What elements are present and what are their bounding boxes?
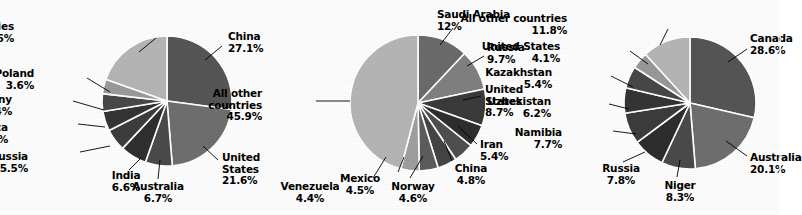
pie-label-south-africa-line-0: South Africa <box>0 122 8 134</box>
pie-label-south-africa-line-1: 4.9% <box>0 134 8 146</box>
pie-label-australia-line-0: Australia <box>750 152 802 164</box>
leader-line-russia <box>623 152 645 162</box>
pie-label-australia-line-1: 6.7% <box>128 193 188 205</box>
pie-label-united-states-line-0: United <box>222 152 260 164</box>
pie-label-germany-line-0: Germany <box>0 94 12 106</box>
pie-label-all-other-countries-line-2: 45.9% <box>208 111 262 123</box>
pie-label-russia-line-0: Russia <box>591 163 651 175</box>
pie-label-china-line-0: China <box>441 163 501 175</box>
pie-label-namibia-line-1: 7.7% <box>515 139 562 151</box>
pie-label-canada-line-1: 28.6% <box>750 45 793 57</box>
pie-label-all-other-countries-line-0: All other <box>208 88 262 100</box>
pie-label-australia: Australia20.1% <box>750 152 802 175</box>
pie-label-uzbekistan-line-1: 6.2% <box>487 108 551 120</box>
pie-label-kazakhstan-line-0: Kazakhstan <box>485 67 552 79</box>
pie-label-poland-line-0: Poland <box>0 68 34 80</box>
pie-label-niger-line-0: Niger <box>650 180 710 192</box>
pie-label-canada-line-0: Canada <box>750 33 793 45</box>
pie-label-united-states-line-0: United States <box>482 41 560 53</box>
pie-label-venezuela-line-1: 4.4% <box>280 193 340 205</box>
pie-label-niger-line-1: 8.3% <box>650 192 710 204</box>
pie-label-namibia-line-0: Namibia <box>515 127 562 139</box>
pie-label-united-states-line-2: 21.6% <box>222 175 260 187</box>
pie-label-india-line-1: 6.6% <box>96 182 156 194</box>
pie-label-all-other-countries: All other countries19.6% <box>0 21 14 44</box>
leader-line-south-africa <box>78 124 105 127</box>
pie-label-poland: Poland3.6% <box>0 68 34 91</box>
pie-label-venezuela-line-0: Venezuela <box>280 181 340 193</box>
pie-label-india-line-0: India <box>96 170 156 182</box>
pie-label-all-other-countries-line-0: All other countries <box>461 13 567 25</box>
pie-label-russia-line-1: 7.8% <box>591 175 651 187</box>
pie-label-kazakhstan-line-1: 5.4% <box>485 79 552 91</box>
pie-label-china-line-1: 4.8% <box>441 175 501 187</box>
pie-1-slices <box>350 35 486 171</box>
pie-label-uzbekistan: Uzbekistan6.2% <box>487 96 551 119</box>
pie-label-kazakhstan: Kazakhstan5.4% <box>485 67 552 90</box>
pie-label-australia-line-1: 20.1% <box>750 164 802 176</box>
leader-line-russia <box>80 146 110 152</box>
pie-label-germany: Germany4.4% <box>0 94 12 117</box>
pie-label-norway: Norway4.6% <box>383 181 443 204</box>
pie-label-iran-line-0: Iran <box>480 139 508 151</box>
pie-label-china-line-1: 27.1% <box>228 43 263 55</box>
pie-label-norway-line-0: Norway <box>383 181 443 193</box>
pie-label-all-other-countries-line-1: 11.8% <box>461 25 567 37</box>
pie-label-venezuela: Venezuela4.4% <box>280 181 340 204</box>
pie-label-norway-line-1: 4.6% <box>383 193 443 205</box>
pie-label-niger: Niger8.3% <box>650 180 710 203</box>
pie-label-all-other-countries-line-1: 19.6% <box>0 33 14 45</box>
pie-label-china: China4.8% <box>441 163 501 186</box>
pie-label-poland-line-1: 3.6% <box>0 80 34 92</box>
pie-label-iran-line-1: 5.4% <box>480 151 508 163</box>
pie-label-namibia: Namibia7.7% <box>515 127 562 150</box>
pie-label-all-other-countries: All other countries11.8% <box>461 13 567 36</box>
pie-label-russia: Russia5.5% <box>0 151 28 174</box>
pie-label-russia: Russia7.8% <box>591 163 651 186</box>
right-edge-crop <box>778 0 781 215</box>
pie-label-south-africa: South Africa4.9% <box>0 122 8 145</box>
pie-label-russia-line-0: Russia <box>0 151 28 163</box>
pie-label-all-other-countries: All othercountries45.9% <box>208 88 262 123</box>
pie-label-russia-line-1: 5.5% <box>0 163 28 175</box>
pie-label-iran: Iran5.4% <box>480 139 508 162</box>
pie-label-all-other-countries-line-0: All other countries <box>0 21 14 33</box>
leader-line-germany <box>73 101 104 110</box>
pie-label-united-states: United States4.1% <box>482 41 560 64</box>
pie-label-uzbekistan-line-0: Uzbekistan <box>487 96 551 108</box>
pie-label-germany-line-1: 4.4% <box>0 106 12 118</box>
pie-label-united-states-line-1: 4.1% <box>482 53 560 65</box>
pie-label-canada: Canada28.6% <box>750 33 793 56</box>
pie-label-india: India6.6% <box>96 170 156 193</box>
pie-label-united-states: UnitedStates21.6% <box>222 152 260 187</box>
pie-label-china: China27.1% <box>228 31 263 54</box>
pie-label-china-line-0: China <box>228 31 263 43</box>
